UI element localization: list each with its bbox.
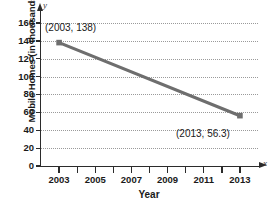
point-annotation-2003: (2003, 138)	[45, 22, 96, 33]
x-axis-label: Year	[40, 189, 258, 200]
data-point-marker	[237, 113, 243, 119]
data-series	[0, 0, 272, 208]
series-line	[59, 43, 240, 116]
chart-figure: Mobile Homes (in thousands) y x 02040608…	[0, 0, 272, 208]
point-annotation-2013: (2013, 56.3)	[176, 128, 230, 139]
data-point-marker	[56, 40, 62, 46]
